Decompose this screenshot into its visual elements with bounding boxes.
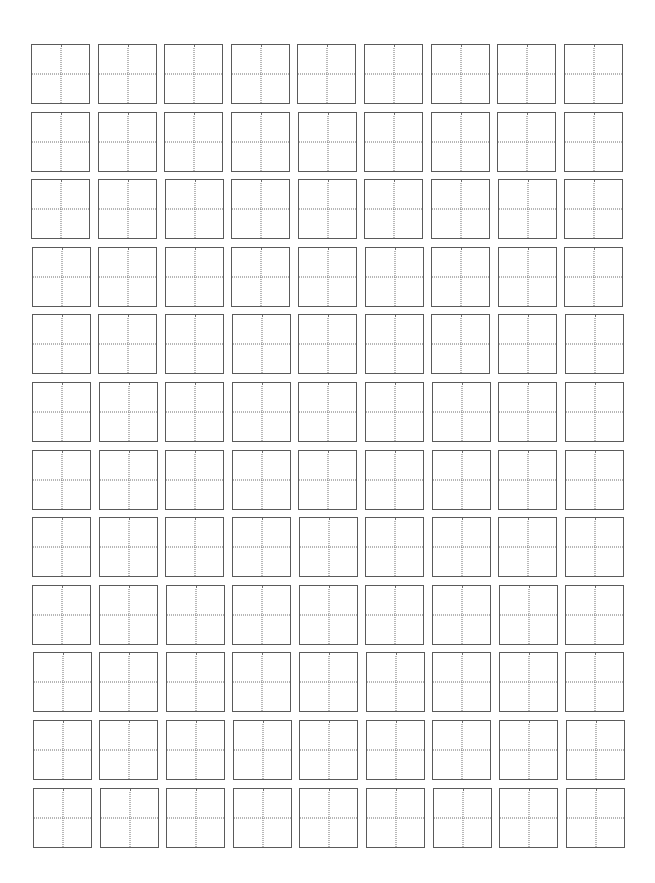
tianzige-cell [99, 382, 158, 442]
horizontal-guide-line [165, 142, 222, 143]
horizontal-guide-line [367, 818, 424, 819]
horizontal-guide-line [433, 412, 490, 413]
tianzige-cell [165, 450, 224, 510]
horizontal-guide-line [499, 547, 556, 548]
tianzige-cell [232, 450, 291, 510]
tianzige-cell [564, 179, 623, 239]
horizontal-guide-line [300, 547, 357, 548]
horizontal-guide-line [233, 615, 290, 616]
horizontal-guide-line [33, 615, 90, 616]
grid-row [31, 314, 626, 375]
horizontal-guide-line [234, 750, 291, 751]
grid-row [31, 788, 626, 849]
horizontal-guide-line [299, 480, 356, 481]
grid-row [31, 44, 626, 105]
grid-row [31, 179, 626, 240]
horizontal-guide-line [165, 74, 222, 75]
horizontal-guide-line [33, 277, 90, 278]
tianzige-cell [432, 585, 491, 645]
tianzige-cell [431, 314, 490, 374]
horizontal-guide-line [167, 818, 224, 819]
horizontal-guide-line [432, 277, 489, 278]
horizontal-guide-line [100, 615, 157, 616]
horizontal-guide-line [566, 412, 623, 413]
horizontal-guide-line [166, 547, 223, 548]
horizontal-guide-line [433, 682, 490, 683]
horizontal-guide-line [566, 615, 623, 616]
tianzige-cell [98, 44, 157, 104]
tianzige-cell [565, 450, 624, 510]
horizontal-guide-line [366, 412, 423, 413]
tianzige-cell [365, 382, 424, 442]
horizontal-guide-line [166, 480, 223, 481]
horizontal-guide-line [167, 682, 224, 683]
tianzige-cell [498, 450, 557, 510]
tianzige-cell [31, 112, 90, 172]
tianzige-cell [565, 382, 624, 442]
tianzige-cell [298, 314, 357, 374]
tianzige-cell [366, 788, 425, 848]
horizontal-guide-line [566, 344, 623, 345]
tianzige-cell [499, 652, 558, 712]
tianzige-cell [564, 247, 623, 307]
horizontal-guide-line [365, 142, 422, 143]
horizontal-guide-line [34, 818, 91, 819]
horizontal-guide-line [366, 277, 423, 278]
tianzige-cell [565, 517, 624, 577]
horizontal-guide-line [433, 750, 490, 751]
tianzige-cell [99, 517, 158, 577]
tianzige-cell [165, 382, 224, 442]
tianzige-cell [364, 112, 423, 172]
horizontal-guide-line [366, 344, 423, 345]
horizontal-guide-line [498, 142, 555, 143]
horizontal-guide-line [499, 277, 556, 278]
horizontal-guide-line [99, 277, 156, 278]
horizontal-guide-line [367, 750, 424, 751]
tianzige-cell [298, 112, 357, 172]
tianzige-cell [432, 382, 491, 442]
horizontal-guide-line [566, 682, 623, 683]
grid-row [31, 585, 626, 646]
horizontal-guide-line [365, 209, 422, 210]
horizontal-guide-line [500, 818, 557, 819]
tianzige-cell [365, 517, 424, 577]
tianzige-cell [431, 112, 490, 172]
horizontal-guide-line [234, 818, 291, 819]
tianzige-cell [499, 720, 558, 780]
horizontal-guide-line [100, 412, 157, 413]
horizontal-guide-line [232, 142, 289, 143]
grid-row [31, 720, 626, 781]
tianzige-cell [432, 517, 491, 577]
tianzige-cell [431, 247, 490, 307]
horizontal-guide-line [32, 209, 89, 210]
tianzige-cell [433, 788, 492, 848]
horizontal-guide-line [166, 277, 223, 278]
horizontal-guide-line [33, 480, 90, 481]
tianzige-cell [164, 44, 223, 104]
horizontal-guide-line [232, 74, 289, 75]
horizontal-guide-line [167, 615, 224, 616]
tianzige-cell [499, 788, 558, 848]
horizontal-guide-line [166, 412, 223, 413]
tianzige-cell [166, 788, 225, 848]
tianzige-cell [231, 44, 290, 104]
tianzige-cell [165, 517, 224, 577]
horizontal-guide-line [233, 682, 290, 683]
tianzige-cell [299, 720, 358, 780]
grid-row [31, 247, 626, 308]
horizontal-guide-line [101, 818, 158, 819]
tianzige-cell [164, 112, 223, 172]
tianzige-cell [299, 585, 358, 645]
horizontal-guide-line [432, 209, 489, 210]
tianzige-cell [166, 652, 225, 712]
horizontal-guide-line [32, 74, 89, 75]
horizontal-guide-line [366, 615, 423, 616]
tianzige-cell [233, 788, 292, 848]
horizontal-guide-line [432, 344, 489, 345]
horizontal-guide-line [298, 74, 355, 75]
tianzige-cell [232, 517, 291, 577]
tianzige-cell [232, 585, 291, 645]
horizontal-guide-line [299, 142, 356, 143]
horizontal-guide-line [33, 547, 90, 548]
horizontal-guide-line [100, 750, 157, 751]
